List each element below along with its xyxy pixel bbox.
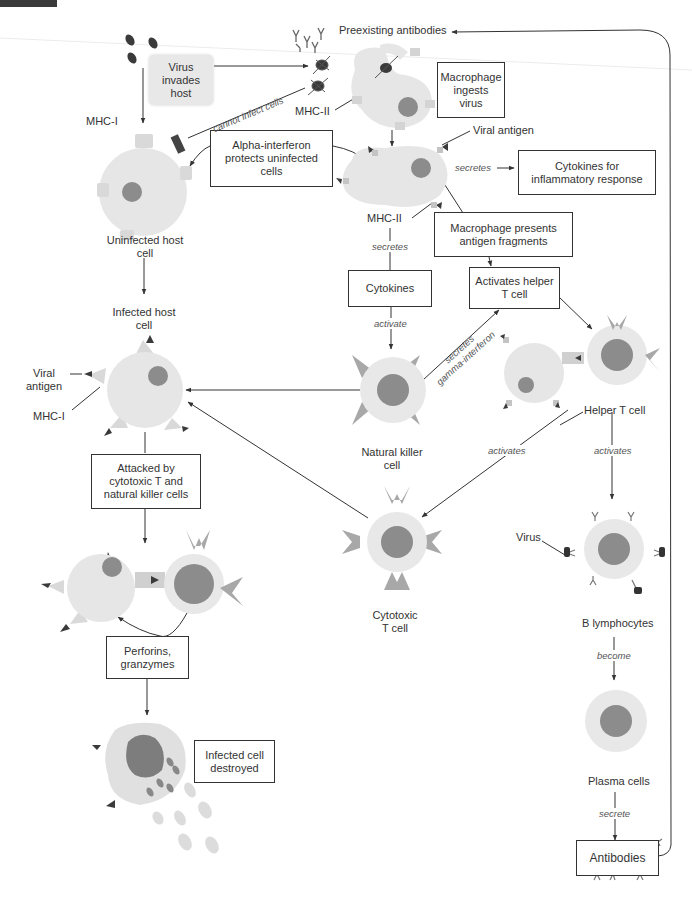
label-uninfected-host-cell: Uninfected host cell	[104, 234, 186, 260]
edge-label-become: become	[597, 650, 631, 661]
label-viral-antigen-top: Viral antigen	[473, 124, 534, 137]
edge-label-secretes-inflammatory: secretes	[455, 162, 491, 173]
label-mhc-i-top: MHC-I	[86, 115, 118, 128]
box-infected-destroyed: Infected cell destroyed	[194, 740, 275, 783]
interferon-blocked-virus	[171, 134, 186, 154]
label-mhc-i-left: MHC-I	[33, 410, 65, 423]
b-lymphocyte	[564, 512, 665, 594]
label-preexisting-antibodies: Preexisting antibodies	[339, 24, 447, 37]
label-mhc-ii-bottom: MHC-II	[367, 212, 402, 225]
box-perforins: Perforins, granzymes	[106, 636, 189, 679]
box-cytokines: Cytokines	[348, 270, 432, 307]
edge-label-activates-cytotoxic: activates	[488, 445, 526, 456]
box-alpha-interferon: Alpha-interferon protects uninfected cel…	[210, 130, 333, 187]
edge-label-secrete: secrete	[599, 808, 630, 819]
box-macrophage-presents: Macrophage presents antigen fragments	[434, 212, 573, 257]
attacking-cells	[41, 530, 243, 632]
label-helper-t-cell: Helper T cell	[584, 404, 645, 417]
macrophage-presenting	[336, 143, 448, 209]
antibody-bound-virus	[308, 56, 330, 95]
label-natural-killer-cell: Natural killer cell	[356, 446, 428, 472]
label-plasma-cells: Plasma cells	[588, 775, 650, 788]
label-virus: Virus	[516, 531, 541, 544]
edge-label-activate: activate	[374, 318, 407, 329]
helper-t-cell-pair	[500, 315, 660, 409]
label-cytotoxic-t-cell: Cytotoxic T cell	[360, 609, 430, 635]
infected-host-cell	[84, 335, 189, 436]
plasma-cell	[585, 690, 647, 752]
edge-label-secretes-cytokines: secretes	[372, 241, 408, 252]
box-macrophage-ingests: Macrophage ingests virus	[437, 62, 505, 118]
box-cytokines-inflammatory: Cytokines for inflammatory response	[518, 150, 656, 195]
label-b-lymphocytes: B lymphocytes	[582, 617, 654, 630]
label-infected-host-cell: Infected host cell	[108, 306, 180, 332]
label-viral-antigen-left: Viral antigen	[24, 367, 64, 393]
box-virus-invades: Virus invades host	[149, 55, 213, 105]
preexisting-antibody-icons	[293, 28, 324, 53]
box-activates-helper: Activates helper T cell	[469, 267, 560, 309]
immune-response-diagram: Virus invades host Macrophage ingests vi…	[0, 0, 692, 911]
label-mhc-ii-left: MHC-II	[295, 105, 330, 118]
box-antibodies: Antibodies	[576, 840, 659, 876]
box-attacked-by: Attacked by cytotoxic T and natural kill…	[91, 454, 201, 509]
cytotoxic-t-cell	[342, 486, 442, 590]
edge-label-activates-b: activates	[594, 445, 632, 456]
